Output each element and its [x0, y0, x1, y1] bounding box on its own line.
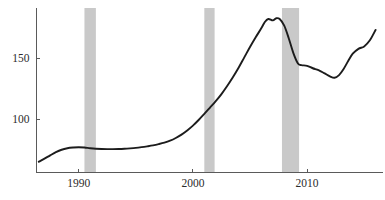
recession-band-group [84, 8, 299, 173]
y-axis-label-100: 100 [12, 113, 30, 125]
tick-label-group: 100150199020002010 [12, 52, 319, 189]
chart-container: 100150199020002010 [0, 0, 385, 200]
x-axis-label-2000: 2000 [181, 177, 204, 189]
recession-2001 [204, 8, 214, 173]
y-axis-label-150: 150 [12, 52, 30, 64]
tick-marks [37, 58, 308, 173]
recession-2008 [282, 8, 299, 173]
line-chart: 100150199020002010 [0, 0, 385, 200]
x-axis-label-2010: 2010 [296, 177, 319, 189]
x-axis-label-1990: 1990 [67, 177, 90, 189]
